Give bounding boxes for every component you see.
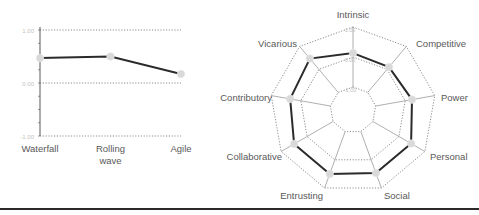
radar-axis-label: Social xyxy=(384,190,410,201)
x-category-label: Agile xyxy=(170,143,191,154)
radar-spoke xyxy=(373,122,425,152)
radar-axis-label: Power xyxy=(441,92,468,103)
radar-data-marker xyxy=(372,169,380,177)
radar-axis-label: Vicarious xyxy=(258,38,297,49)
radar-spoke xyxy=(281,122,333,152)
radar-series-line xyxy=(290,53,412,174)
line-chart: 1.000.00-1.00WaterfallRollingwaveAgile xyxy=(0,0,220,205)
radar-spoke xyxy=(376,96,435,106)
radar-data-marker xyxy=(286,95,294,103)
radar-axis-label: Entrusting xyxy=(280,190,323,201)
radar-data-marker xyxy=(407,140,415,148)
x-category-label: Rolling xyxy=(96,143,125,154)
radar-data-marker xyxy=(326,170,334,178)
x-category-label: Waterfall xyxy=(21,143,58,154)
radar-axis-label: Collaborative xyxy=(227,151,282,162)
radar-data-marker xyxy=(306,55,314,63)
radar-data-marker xyxy=(408,96,416,104)
chart-figure: 1.000.00-1.00WaterfallRollingwaveAgile -… xyxy=(0,0,479,215)
y-tick-label: -1.00 xyxy=(20,134,34,140)
radar-data-marker xyxy=(385,63,393,71)
data-point-marker xyxy=(36,54,44,62)
radar-axis-label: Intrinsic xyxy=(337,9,370,20)
y-tick-label: 0.00 xyxy=(22,81,34,87)
radar-data-marker xyxy=(290,140,298,148)
radar-data-marker xyxy=(349,49,357,57)
radar-axis-label: Competitive xyxy=(416,38,466,49)
radar-chart: -1.000.001.00IntrinsicCompetitivePowerPe… xyxy=(220,0,479,205)
data-point-marker xyxy=(107,53,115,61)
y-tick-label: 1.00 xyxy=(22,28,34,34)
data-point-marker xyxy=(177,70,185,78)
bottom-separator xyxy=(0,208,479,210)
radar-ring-label: -1.00 xyxy=(344,87,357,93)
radar-ring xyxy=(330,87,375,132)
radar-axis-label: Personal xyxy=(430,151,468,162)
radar-ring-label: 1.00 xyxy=(345,27,356,33)
radar-ring-label: 0.00 xyxy=(345,57,356,63)
radar-axis-label: Contributory xyxy=(220,92,272,103)
x-category-label: wave xyxy=(98,155,121,166)
radar-spoke xyxy=(271,96,330,106)
